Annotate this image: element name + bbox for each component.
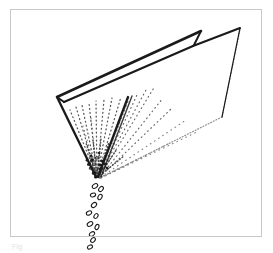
figure-root: Fig bbox=[0, 0, 273, 253]
figure-frame-border bbox=[10, 9, 262, 237]
figure-caption: Fig bbox=[12, 243, 132, 251]
